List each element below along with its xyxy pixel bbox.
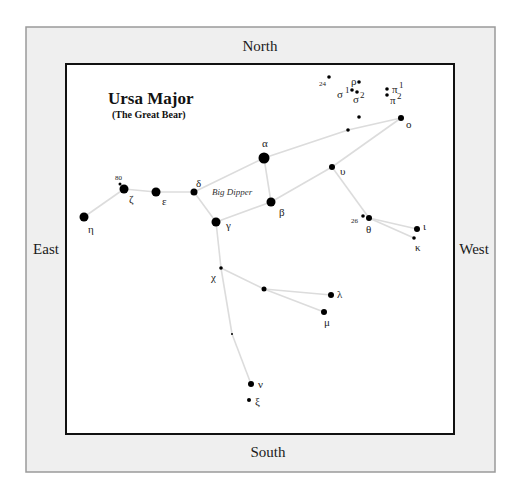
star-label: 2 [360, 90, 365, 100]
star-kappa [412, 236, 416, 240]
direction-south: South [250, 444, 286, 460]
star-alpha [259, 153, 270, 164]
star-label: ε [162, 195, 167, 207]
star-label: μ [324, 316, 330, 328]
star-label: 1 [345, 85, 350, 95]
direction-north: North [243, 38, 278, 54]
chart-title: Ursa Major [108, 89, 194, 108]
star-label: 26 [351, 217, 359, 225]
star-zeta [120, 185, 129, 194]
star-chart: North South East West αβγδεζη80υοθ26ικχλ… [0, 0, 522, 493]
star-delta [191, 189, 198, 196]
star-omicron [398, 115, 404, 121]
direction-west: West [459, 241, 489, 257]
star-label: β [279, 206, 285, 218]
star-label: η [88, 223, 94, 235]
star-omega [231, 333, 233, 335]
star-label: κ [415, 241, 421, 253]
star-label: 2 [397, 91, 402, 101]
star-label: ζ [129, 193, 134, 206]
star-label: θ [366, 223, 371, 235]
star-chi [219, 266, 223, 270]
asterism-label: Big Dipper [212, 187, 253, 197]
star-unl1 [346, 128, 350, 132]
star-nu [248, 381, 254, 387]
star-xi [247, 398, 251, 402]
star-label: 80 [115, 174, 123, 182]
star-label: ο [406, 118, 412, 130]
star-24 [327, 75, 331, 79]
star-label: χ [210, 271, 216, 283]
star-epsilon [152, 188, 161, 197]
star-label: ρ [351, 75, 357, 87]
star-gamma [212, 218, 221, 227]
star-label: γ [225, 219, 231, 231]
star-label: σ [353, 93, 359, 105]
star-sigma1 [350, 88, 354, 92]
star-26 [361, 214, 365, 218]
star-lambda [328, 292, 334, 298]
star-mu [321, 309, 327, 315]
star-label: λ [337, 288, 343, 300]
star-80 [119, 183, 122, 186]
star-unl2 [357, 115, 361, 119]
star-label: π [390, 94, 396, 106]
star-label: σ [337, 88, 343, 100]
star-label: δ [196, 177, 201, 189]
star-theta [366, 215, 372, 221]
star-eta [80, 213, 89, 222]
star-label: υ [340, 165, 346, 177]
star-label: 24 [319, 80, 327, 88]
star-label: ν [258, 378, 263, 390]
star-iota [414, 226, 420, 232]
star-label: 1 [399, 80, 404, 90]
star-label: ξ [255, 395, 260, 408]
star-pi2 [385, 93, 389, 97]
star-label: α [262, 137, 268, 149]
star-beta [267, 198, 276, 207]
star-psi [262, 287, 267, 292]
star-label: ι [423, 220, 426, 232]
star-rho [357, 80, 361, 84]
direction-east: East [33, 241, 60, 257]
star-pi1 [385, 87, 389, 91]
star-upsilon [329, 164, 335, 170]
chart-subtitle: (The Great Bear) [112, 109, 186, 121]
